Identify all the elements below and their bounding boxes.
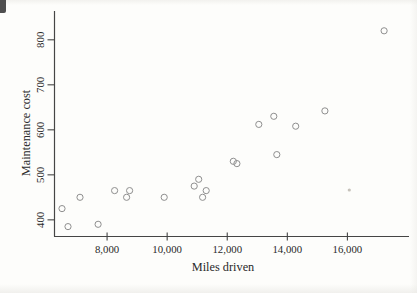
y-axis-ticks: 400500600700800 — [34, 32, 55, 228]
y-tick-label: 800 — [34, 32, 46, 48]
data-point — [381, 28, 387, 34]
data-point — [200, 194, 206, 200]
x-tick-label: 10,000 — [152, 243, 182, 255]
y-tick-label: 400 — [34, 212, 46, 228]
data-point — [271, 113, 277, 119]
data-points — [59, 28, 387, 230]
data-point — [293, 123, 299, 129]
data-point — [59, 206, 65, 212]
y-tick-label: 600 — [34, 122, 46, 138]
x-tick-label: 12,000 — [212, 243, 242, 255]
data-point — [196, 176, 202, 182]
y-tick-label: 500 — [34, 167, 46, 183]
data-point — [203, 188, 209, 194]
x-axis-title: Miles driven — [192, 260, 255, 274]
y-axis-title: Maintenance cost — [19, 89, 33, 176]
y-tick-label: 700 — [34, 77, 46, 93]
data-point — [124, 194, 130, 200]
x-tick-label: 14,000 — [272, 243, 302, 255]
data-point — [274, 152, 280, 158]
data-point — [95, 221, 101, 227]
data-point — [191, 183, 197, 189]
data-point — [77, 194, 83, 200]
x-tick-label: 8,000 — [95, 243, 119, 255]
data-point — [256, 121, 262, 127]
data-point — [112, 188, 118, 194]
data-point — [322, 108, 328, 114]
data-point — [161, 194, 167, 200]
data-point — [127, 188, 133, 194]
data-point — [65, 224, 71, 230]
x-axis-ticks: 8,00010,00012,00014,00016,000 — [95, 233, 362, 256]
scan-speck-artifact — [348, 188, 351, 191]
scatter-plot: 400500600700800 8,00010,00012,00014,0001… — [0, 0, 417, 293]
scanned-figure-page: 400500600700800 8,00010,00012,00014,0001… — [0, 0, 417, 293]
x-tick-label: 16,000 — [333, 243, 363, 255]
